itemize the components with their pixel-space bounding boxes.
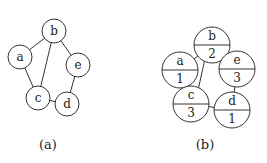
- node-label: e: [74, 58, 81, 72]
- node-label: c: [188, 88, 195, 102]
- node-label: d: [228, 94, 236, 108]
- node-label: a: [176, 54, 183, 68]
- node-value: 3: [187, 106, 195, 120]
- caption-b: (b): [196, 137, 214, 152]
- node-d: d: [55, 92, 79, 116]
- figure-b: a 1 b 2 c 3 d 1 e 3 (b): [162, 27, 255, 152]
- node-label: a: [16, 50, 23, 64]
- node-label: c: [35, 91, 42, 105]
- node-a: a 1: [162, 52, 198, 88]
- node-c: c 3: [173, 86, 209, 122]
- node-e: e 3: [219, 51, 255, 87]
- figure-a: a b c d e (a): [8, 19, 90, 152]
- node-label: b: [50, 24, 58, 38]
- node-c: c: [26, 86, 50, 110]
- node-e: e: [66, 53, 90, 77]
- node-value: 2: [208, 47, 216, 61]
- node-a: a: [8, 45, 32, 69]
- caption-a: (a): [39, 137, 57, 152]
- node-value: 1: [228, 112, 236, 126]
- node-b: b: [42, 19, 66, 43]
- node-value: 3: [233, 71, 241, 85]
- graph-figure: a b c d e (a) a: [0, 0, 267, 163]
- node-label: d: [63, 97, 71, 111]
- node-value: 1: [176, 72, 184, 86]
- node-label: e: [233, 53, 240, 67]
- node-d: d 1: [214, 92, 250, 128]
- node-label: b: [208, 29, 216, 43]
